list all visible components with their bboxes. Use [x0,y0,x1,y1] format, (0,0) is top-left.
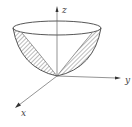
paraboloid-diagram: z y x [0,0,132,127]
x-axis [19,76,57,105]
y-axis-label: y [124,75,131,85]
y-axis [57,76,117,78]
y-axis-arrow-icon [115,77,121,80]
z-axis-arrow-icon [56,6,59,12]
x-axis-label: x [21,108,26,118]
z-axis-label: z [61,5,67,15]
